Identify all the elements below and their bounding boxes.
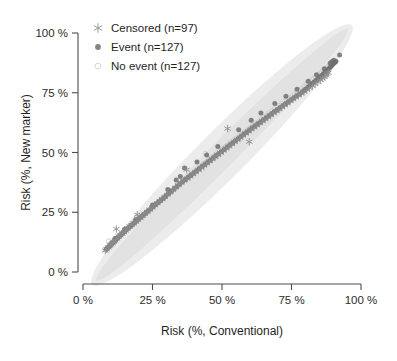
- y-axis-title: Risk (%, New marker): [19, 94, 33, 211]
- scatter-plot-canvas: 0 %25 %50 %75 %100 %0 %25 %50 %75 %100 %…: [0, 0, 397, 361]
- x-axis-title: Risk (%, Conventional): [161, 324, 283, 338]
- x-tick-label: 0 %: [73, 294, 93, 306]
- legend-item-noevent: No event (n=127): [95, 60, 200, 72]
- legend-label: Event (n=127): [111, 41, 184, 53]
- y-tick-label: 25 %: [42, 206, 68, 218]
- legend-label: No event (n=127): [111, 60, 200, 72]
- chart-legend: Censored (n=97)Event (n=127)No event (n=…: [94, 22, 201, 72]
- legend-item-event: Event (n=127): [95, 41, 184, 53]
- x-tick-label: 75 %: [278, 294, 304, 306]
- x-tick-label: 50 %: [209, 294, 235, 306]
- y-tick-label: 0 %: [48, 266, 68, 278]
- x-tick-label: 100 %: [345, 294, 378, 306]
- y-tick-label: 100 %: [35, 27, 68, 39]
- legend-label: Censored (n=97): [111, 22, 198, 34]
- legend-item-censored: Censored (n=97): [94, 22, 198, 34]
- risk-scatter-figure: 0 %25 %50 %75 %100 %0 %25 %50 %75 %100 %…: [0, 0, 397, 361]
- y-tick-label: 50 %: [42, 147, 68, 159]
- y-tick-label: 75 %: [42, 87, 68, 99]
- x-tick-label: 25 %: [139, 294, 165, 306]
